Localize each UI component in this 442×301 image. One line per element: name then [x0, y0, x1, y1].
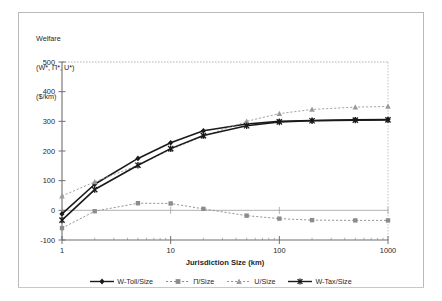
legend-swatch-triangle-icon [227, 277, 251, 286]
legend-item-w-toll-size: W-Toll/Size [90, 277, 153, 286]
x-axis-label: Jurisdiction Size (km) [186, 258, 265, 267]
marker-triangle-icon [309, 107, 315, 112]
marker-square-icon [201, 207, 205, 211]
y-tick-label: -100 [40, 236, 55, 245]
marker-triangle-icon [277, 111, 283, 116]
y-tick-label: 200 [43, 147, 55, 156]
marker-triangle-icon [385, 104, 391, 109]
x-tick-label: 1 [60, 246, 64, 255]
series-w-tax-size [59, 117, 390, 224]
y-tick-label: 100 [43, 176, 55, 185]
series-line [62, 203, 388, 228]
series-w-toll-size [59, 117, 390, 217]
marker-square-icon [244, 213, 248, 217]
legend-swatch-square-icon [166, 277, 190, 286]
x-tick-label: 100 [273, 246, 285, 255]
marker-square-icon [93, 209, 97, 213]
marker-star-icon [135, 162, 140, 168]
y-tick-label: 0 [51, 206, 55, 215]
marker-square-icon [353, 218, 357, 222]
marker-diamond-icon [168, 140, 173, 146]
chart-legend: W-Toll/Size Π/Size U/Size [18, 274, 424, 288]
legend-swatch-diamond-icon [90, 277, 114, 286]
x-tick-label: 10 [167, 246, 175, 255]
legend-label-w-toll-size: W-Toll/Size [117, 277, 153, 286]
marker-triangle-icon [352, 104, 358, 109]
legend-label-pi-size: Π/Size [193, 277, 214, 286]
y-tick-label: 500 [43, 58, 55, 67]
marker-square-icon [386, 218, 390, 222]
y-tick-label: 300 [43, 117, 55, 126]
marker-triangle-icon [59, 193, 65, 198]
series-u-size [59, 104, 391, 199]
series-line [62, 120, 388, 220]
x-tick-label: 1000 [380, 246, 396, 255]
legend-label-u-size: U/Size [254, 277, 275, 286]
legend-label-w-tax-size: W-Tax/Size [315, 277, 351, 286]
legend-item-pi-size: Π/Size [166, 277, 214, 286]
marker-square-icon [277, 216, 281, 220]
y-tick-label: 400 [43, 87, 55, 96]
marker-square-icon [310, 218, 314, 222]
marker-square-icon [168, 201, 172, 205]
series-size [60, 201, 390, 230]
marker-star-icon [59, 217, 64, 223]
legend-item-u-size: U/Size [227, 277, 275, 286]
marker-square-icon [136, 201, 140, 205]
legend-separator [18, 287, 424, 288]
legend-item-w-tax-size: W-Tax/Size [288, 277, 351, 286]
legend-swatch-star-icon [288, 277, 312, 286]
marker-star-icon [92, 186, 97, 192]
series-line [62, 120, 388, 214]
plot-area: -10001002003004005001101001000Jurisdicti… [0, 0, 442, 301]
welfare-chart-figure: Welfare (W*, Π*, U*) ($/km) -10001002003… [0, 0, 442, 301]
marker-square-icon [60, 226, 64, 230]
